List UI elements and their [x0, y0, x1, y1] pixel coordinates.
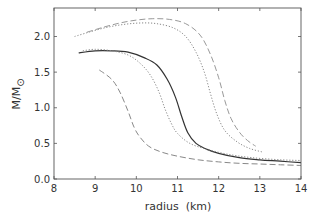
sun-symbol-subscript: ⊙ — [15, 78, 26, 86]
mass-radius-chart: 891011121314 0.00.51.01.52.0 radius (km)… — [0, 0, 313, 217]
y-axis-ticks: 0.00.51.01.52.0 — [34, 31, 301, 185]
y-tick-label: 1.5 — [34, 67, 50, 78]
x-tick-label: 14 — [295, 183, 308, 194]
y-tick-label: 0.0 — [34, 174, 50, 185]
series-line-dotted-outer — [75, 23, 262, 152]
y-tick-label: 1.0 — [34, 102, 50, 113]
x-axis-label: radius (km) — [145, 200, 212, 213]
x-tick-label: 13 — [253, 183, 266, 194]
x-tick-label: 10 — [130, 183, 143, 194]
x-axis-ticks: 891011121314 — [51, 8, 308, 194]
x-tick-label: 9 — [92, 183, 98, 194]
x-tick-label: 8 — [51, 183, 57, 194]
plot-frame — [54, 8, 301, 179]
series-line-dashed-inner — [99, 70, 301, 166]
series-line-dotted-inner — [83, 49, 301, 160]
x-tick-label: 11 — [171, 183, 184, 194]
series-line-dashed-outer — [87, 19, 256, 147]
y-tick-label: 0.5 — [34, 138, 50, 149]
plot-lines — [75, 19, 301, 166]
y-axis-label-group: M/M⊙ — [10, 78, 26, 109]
x-tick-label: 12 — [212, 183, 225, 194]
y-axis-label: M/M⊙ — [10, 78, 26, 109]
y-tick-label: 2.0 — [34, 31, 50, 42]
series-line-solid — [79, 51, 301, 163]
